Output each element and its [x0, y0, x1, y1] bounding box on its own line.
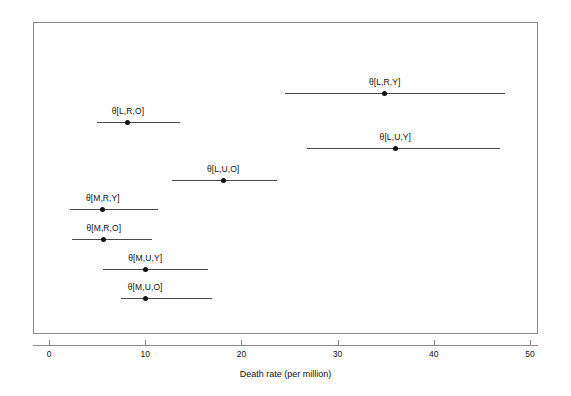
interval-label: θ[L,U,O] [207, 164, 239, 174]
estimate-point [393, 146, 398, 151]
interval-label: θ[M,R,Y] [86, 193, 120, 203]
x-tick-0 [49, 340, 50, 345]
interval-label: θ[M,R,O] [86, 223, 121, 233]
estimate-point [221, 178, 226, 183]
interval-label: θ[L,U,Y] [380, 132, 412, 142]
interval-line [72, 239, 152, 240]
x-tick-30 [338, 340, 339, 345]
x-tick-label: 30 [333, 349, 342, 359]
interval-line [70, 209, 158, 210]
interval-line [121, 298, 211, 299]
x-tick-label: 50 [525, 349, 534, 359]
x-tick-50 [530, 340, 531, 345]
estimate-point [143, 296, 148, 301]
interval-line [285, 93, 505, 94]
x-tick-label: 40 [429, 349, 438, 359]
interval-line [103, 269, 208, 270]
interval-label: θ[M,U,O] [128, 282, 163, 292]
interval-label: θ[L,R,Y] [369, 77, 401, 87]
x-tick-20 [241, 340, 242, 345]
x-tick-10 [145, 340, 146, 345]
x-tick-label: 0 [47, 349, 52, 359]
interval-label: θ[M,U,Y] [128, 253, 162, 263]
interval-plot: θ[L,R,Y]θ[L,U,Y]θ[L,R,O]θ[L,U,O]θ[M,R,Y]… [0, 0, 571, 396]
plot-frame [33, 22, 538, 334]
x-tick-40 [434, 340, 435, 345]
estimate-point [143, 267, 148, 272]
interval-line [97, 122, 180, 123]
x-axis-title: Death rate (per million) [0, 369, 571, 379]
interval-line [307, 148, 500, 149]
x-axis-line [33, 345, 538, 346]
x-tick-label: 20 [237, 349, 246, 359]
interval-label: θ[L,R,O] [112, 106, 144, 116]
x-tick-label: 10 [140, 349, 149, 359]
